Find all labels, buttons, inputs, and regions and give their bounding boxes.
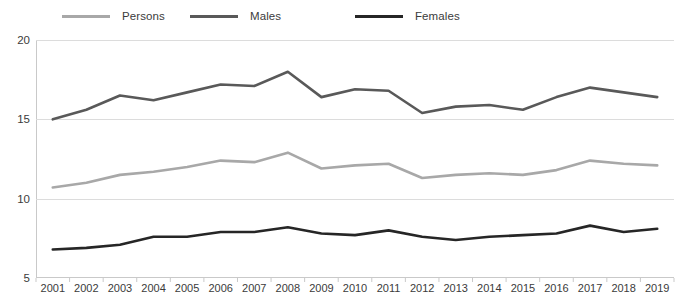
legend-swatch-persons: [62, 15, 110, 18]
x-tick-2005: 2005: [175, 282, 199, 294]
x-tick-2013: 2013: [443, 282, 467, 294]
legend-swatch-males: [190, 15, 238, 18]
x-tick-2015: 2015: [511, 282, 535, 294]
legend-item-females[interactable]: Females: [355, 7, 460, 25]
x-tick-2018: 2018: [611, 282, 635, 294]
x-tick-2001: 2001: [41, 282, 65, 294]
y-tick-10: 10: [17, 193, 30, 205]
x-tick-2002: 2002: [74, 282, 98, 294]
legend-label-persons: Persons: [122, 10, 165, 22]
legend-label-females: Females: [415, 10, 460, 22]
line-chart: Persons Males Females 5101520 2001200220…: [0, 0, 689, 305]
series-lines: [36, 40, 674, 278]
x-tick-2010: 2010: [343, 282, 367, 294]
legend-label-males: Males: [250, 10, 281, 22]
legend-item-males[interactable]: Males: [190, 7, 281, 25]
y-axis-tick-labels: 5101520: [0, 40, 30, 278]
x-tick-2012: 2012: [410, 282, 434, 294]
series-line-males: [53, 72, 657, 120]
chart-legend: Persons Males Females: [0, 0, 689, 32]
y-tick-15: 15: [17, 113, 30, 125]
x-tick-2019: 2019: [645, 282, 669, 294]
legend-swatch-females: [355, 15, 403, 18]
x-tick-2004: 2004: [141, 282, 165, 294]
x-tick-2016: 2016: [544, 282, 568, 294]
x-tick-2003: 2003: [108, 282, 132, 294]
plot-area: [36, 40, 674, 278]
x-tick-2011: 2011: [377, 282, 401, 294]
series-line-persons: [53, 153, 657, 188]
y-tick-5: 5: [24, 272, 30, 284]
x-tick-2007: 2007: [242, 282, 266, 294]
x-axis-tick-labels: 2001200220032004200520062007200820092010…: [36, 282, 674, 302]
x-tick-2017: 2017: [578, 282, 602, 294]
x-tick-2006: 2006: [208, 282, 232, 294]
x-tick-2014: 2014: [477, 282, 501, 294]
series-line-females: [53, 226, 657, 250]
legend-item-persons[interactable]: Persons: [62, 7, 165, 25]
x-tick-2008: 2008: [276, 282, 300, 294]
x-tick-2009: 2009: [309, 282, 333, 294]
y-tick-20: 20: [17, 34, 30, 46]
